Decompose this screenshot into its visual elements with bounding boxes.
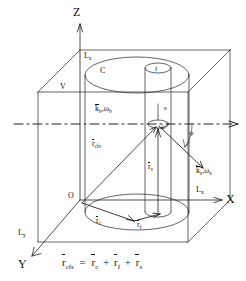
axis-x-line	[80, 197, 222, 202]
vector-r-c	[82, 203, 134, 221]
vector-k-scattered	[159, 126, 203, 168]
box-front-face	[38, 92, 188, 242]
axis-z-line	[77, 24, 82, 200]
axis-label-z: Z	[73, 6, 80, 18]
vector-label-r-s: rs	[148, 163, 153, 171]
dimension-label-lz: Lz	[84, 52, 91, 60]
region-label-small-cylinder: f	[155, 66, 157, 73]
wave-label-scattered: ks,ωs	[196, 167, 212, 175]
box-top-face	[38, 50, 230, 92]
vector-label-r-cfs: rcfs	[92, 140, 101, 148]
scattering-geometry-diagram: Z X Y Lz Lx Ly V C f s O rcfs rs rc rf k…	[0, 0, 246, 281]
diagram-canvas	[0, 0, 246, 281]
region-label-volume: V	[60, 83, 66, 91]
region-label-origin: O	[68, 192, 74, 200]
dimension-label-lx: Lx	[196, 186, 204, 194]
wave-label-incident: kb,ωb	[95, 105, 112, 113]
axis-y-line	[32, 200, 80, 256]
axis-label-x: X	[226, 193, 235, 205]
dimension-label-ly: Ly	[18, 229, 26, 237]
axis-label-y: Y	[18, 258, 27, 270]
region-label-scatterer: s	[164, 105, 167, 112]
vector-label-r-f: rf	[137, 221, 142, 229]
region-label-large-cylinder: C	[100, 67, 105, 75]
vector-label-r-c: rc	[96, 217, 101, 225]
vector-sum-equation: rcfs = rc + rf + rs	[62, 256, 142, 268]
box-right-back-edges	[188, 50, 230, 242]
angle-label-psi: ψ	[189, 130, 193, 137]
